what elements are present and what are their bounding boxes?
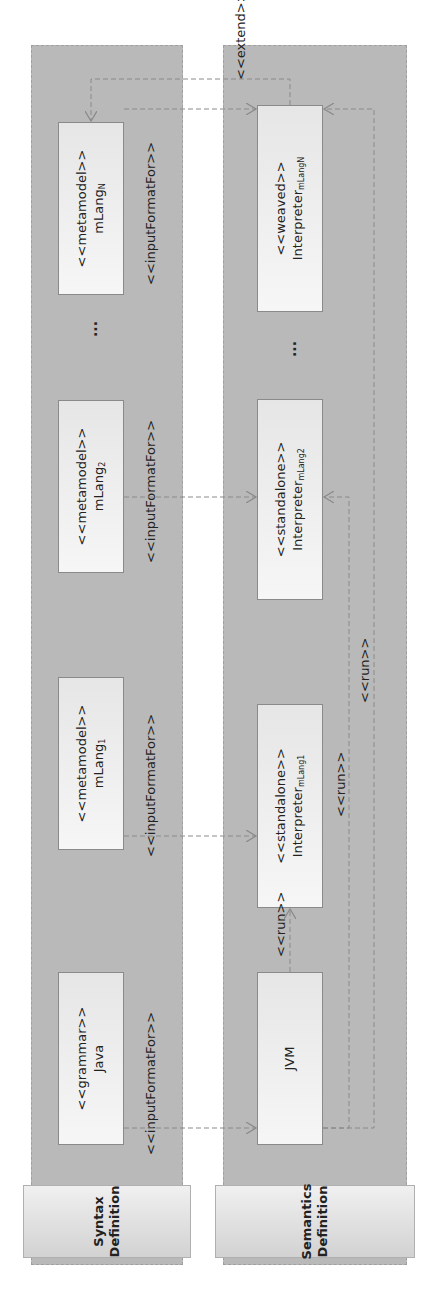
- relation-arrows: [0, 0, 444, 1297]
- jvm-run-interp2-arrow: [323, 497, 349, 1128]
- extend-arrow: [91, 79, 290, 121]
- diagram-canvas: Syntax Definition Semantics Definition <…: [0, 0, 444, 1297]
